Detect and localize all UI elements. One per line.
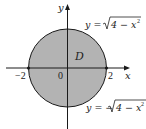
y-axis-label: y: [57, 2, 64, 13]
tick-label-pos2: 2: [108, 70, 113, 81]
upper-eq-radicand: 4 − x: [110, 19, 137, 30]
point-neg2: [27, 66, 30, 69]
diagram-canvas: y x −2 0 2 D y = 4 − x 2 y = − 4 − x 2: [0, 0, 146, 129]
tick-label-origin: 0: [58, 70, 63, 81]
lower-eq-radicand: 4 − x: [115, 102, 142, 113]
tick-label-neg2: −2: [15, 70, 26, 81]
x-axis-label: x: [125, 70, 131, 81]
region-label: D: [74, 50, 84, 63]
upper-curve-equation: y = 4 − x 2: [84, 17, 141, 30]
upper-eq-exponent: 2: [137, 18, 140, 24]
lower-eq-exponent: 2: [141, 101, 144, 107]
y-axis-arrow-icon: [65, 4, 70, 10]
upper-eq-lhs: y =: [84, 19, 101, 30]
lower-eq-lhs: y = −: [85, 102, 113, 113]
lower-curve-equation: y = − 4 − x 2: [85, 100, 146, 113]
